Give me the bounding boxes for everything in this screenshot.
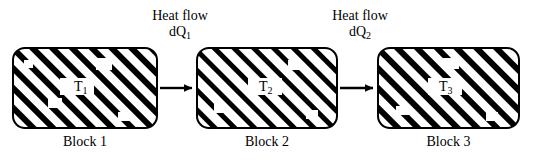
block-3-temperature-symbol: T xyxy=(439,79,448,94)
heat-flow-label-1-symbol: dQ xyxy=(169,24,186,39)
heat-flow-label-1-subscript: 1 xyxy=(186,30,191,41)
heat-flow-label-2: Heat flow dQ2 xyxy=(320,8,400,44)
heat-flow-label-1: Heat flow dQ1 xyxy=(140,8,220,44)
block-3-temperature-label: T3 xyxy=(439,80,453,98)
block-3-temperature-subscript: 3 xyxy=(448,85,453,96)
block-1-caption: Block 1 xyxy=(13,134,157,150)
block-1-temperature-symbol: T xyxy=(74,79,83,94)
block-1-temperature-subscript: 1 xyxy=(83,85,88,96)
heat-flow-label-2-subscript: 2 xyxy=(366,30,371,41)
heat-flow-label-2-line1: Heat flow xyxy=(320,8,400,24)
heat-flow-label-2-line2: dQ2 xyxy=(320,24,400,44)
block-2-temperature-subscript: 2 xyxy=(268,85,273,96)
heat-flow-label-2-symbol: dQ xyxy=(349,24,366,39)
block-3-caption: Block 3 xyxy=(378,134,519,150)
block-2-caption: Block 2 xyxy=(197,134,337,150)
heat-flow-label-1-line1: Heat flow xyxy=(140,8,220,24)
heat-flow-label-1-line2: dQ1 xyxy=(140,24,220,44)
block-2-temperature-symbol: T xyxy=(259,79,268,94)
block-2-temperature-label: T2 xyxy=(259,80,273,98)
block-1-temperature-label: T1 xyxy=(74,80,88,98)
